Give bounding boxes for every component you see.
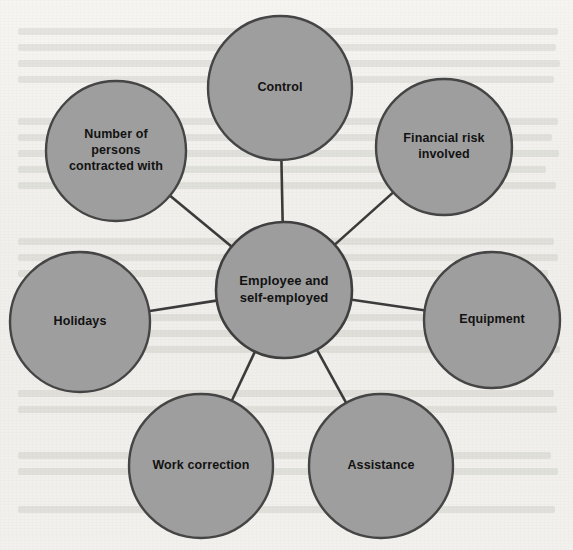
node-work-correction[interactable]: Work correction [129,394,273,538]
node-number-of-persons-contracted-with[interactable]: Number ofpersonscontracted with [46,81,186,221]
node-control[interactable]: Control [208,16,352,160]
node-equipment[interactable]: Equipment [424,252,560,388]
diagram-page: ControlFinancial riskinvolvedEquipmentAs… [0,0,573,550]
connector-hub-to-holidays [148,300,218,311]
node-circle-equipment[interactable] [424,252,560,388]
node-circle-assistance[interactable] [309,394,453,538]
connector-hub-to-control [281,159,282,223]
node-holidays[interactable]: Holidays [10,252,150,392]
connector-hub-to-number-of-persons-contracted-with [169,195,232,247]
nodes-layer: ControlFinancial riskinvolvedEquipmentAs… [10,16,560,538]
connector-hub-to-work-correction [231,351,255,402]
connector-hub-to-equipment [350,300,425,311]
node-circle-holidays[interactable] [10,252,150,392]
hub-and-spoke-diagram: ControlFinancial riskinvolvedEquipmentAs… [0,0,573,550]
node-assistance[interactable]: Assistance [309,394,453,538]
node-employee-and-self-employed[interactable]: Employee andself-employed [216,222,352,358]
connector-hub-to-financial-risk-involved [334,192,394,246]
node-circle-number-of-persons-contracted-with[interactable] [46,81,186,221]
node-circle-control[interactable] [208,16,352,160]
node-financial-risk-involved[interactable]: Financial riskinvolved [376,79,512,215]
node-circle-financial-risk-involved[interactable] [376,79,512,215]
connector-hub-to-assistance [316,349,346,404]
node-circle-work-correction[interactable] [129,394,273,538]
node-circle-employee-and-self-employed[interactable] [216,222,352,358]
